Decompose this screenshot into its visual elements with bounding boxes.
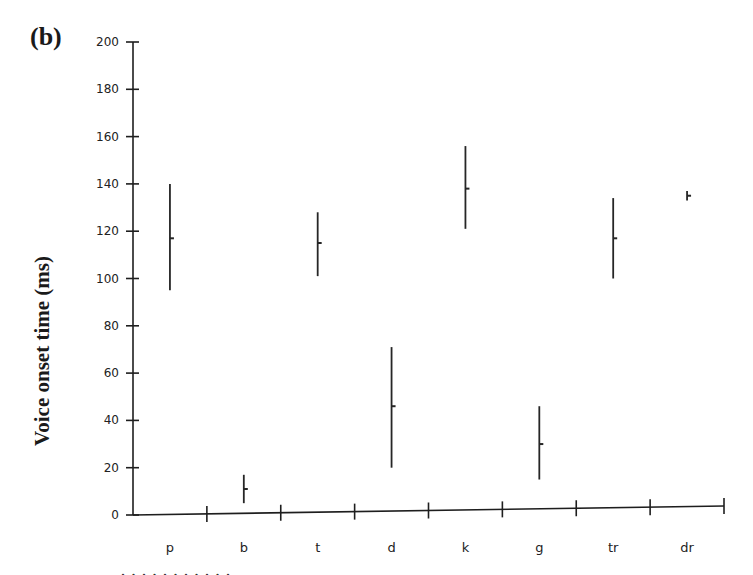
x-category-label: dr — [680, 540, 694, 555]
x-category-label: t — [315, 540, 320, 555]
y-tick-label: 140 — [96, 177, 119, 191]
error-bar-g — [539, 406, 543, 479]
y-tick-label: 0 — [111, 508, 119, 522]
x-axis: pbtdkgtrdr — [133, 498, 724, 555]
y-tick-label: 120 — [96, 224, 119, 238]
x-category-label: g — [535, 540, 543, 555]
y-tick-label: 60 — [104, 366, 119, 380]
x-category-label: p — [166, 540, 174, 555]
x-category-label: d — [387, 540, 395, 555]
y-tick-label: 100 — [96, 272, 119, 286]
x-category-label: tr — [608, 540, 619, 555]
y-tick-label: 20 — [104, 461, 119, 475]
error-bar-d — [392, 347, 396, 468]
y-tick-label: 80 — [104, 319, 119, 333]
error-bar-t — [318, 212, 322, 276]
error-bar-dr — [687, 191, 691, 200]
error-bar-b — [244, 475, 248, 503]
chart-canvas: 020406080100120140160180200 pbtdkgtrdr — [0, 0, 753, 575]
y-tick-label: 180 — [96, 82, 119, 96]
y-axis: 020406080100120140160180200 — [96, 35, 139, 522]
error-bars — [170, 146, 691, 503]
y-tick-label: 40 — [104, 413, 119, 427]
error-bar-tr — [613, 198, 617, 278]
y-tick-label: 160 — [96, 130, 119, 144]
y-tick-label: 200 — [96, 35, 119, 49]
error-bar-k — [465, 146, 469, 229]
x-category-label: k — [462, 540, 470, 555]
cropped-caption-fragment: · · · · · · · · · · · — [120, 566, 740, 575]
x-category-label: b — [240, 540, 248, 555]
error-bar-p — [170, 184, 174, 290]
